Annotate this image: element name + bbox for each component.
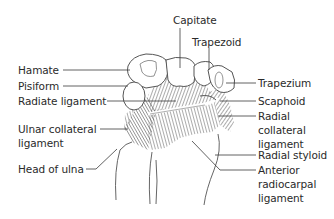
label-hamate: Hamate — [18, 64, 59, 76]
label-anterior-radiocarpal-line3: ligament — [258, 192, 304, 204]
wrist-diagram: Capitate Trapezoid Hamate Trapezium Pisi… — [0, 0, 334, 219]
label-radial-collateral-line1: Radial — [258, 110, 290, 122]
label-radial-styloid: Radial styloid — [258, 149, 327, 161]
ulna-outline — [116, 150, 121, 200]
label-scaphoid: Scaphoid — [258, 95, 305, 107]
label-anterior-radiocarpal-line1: Anterior — [258, 164, 300, 176]
label-pisiform: Pisiform — [18, 80, 59, 92]
label-ulnar-collateral-line2: ligament — [18, 137, 64, 149]
label-ulnar-collateral-line1: Ulnar collateral — [18, 123, 96, 135]
label-trapezoid: Trapezoid — [192, 36, 241, 48]
trapezium-bone — [208, 66, 235, 93]
capitate-bone — [166, 57, 196, 86]
label-capitate: Capitate — [173, 14, 217, 26]
label-radiate-ligament: Radiate ligament — [18, 95, 106, 107]
label-trapezium: Trapezium — [258, 77, 311, 89]
label-anterior-radiocarpal-line2: radiocarpal — [258, 178, 316, 190]
label-radial-collateral-line2: collateral — [258, 124, 306, 136]
label-head-of-ulna: Head of ulna — [18, 163, 84, 175]
radius-outline — [204, 134, 219, 205]
